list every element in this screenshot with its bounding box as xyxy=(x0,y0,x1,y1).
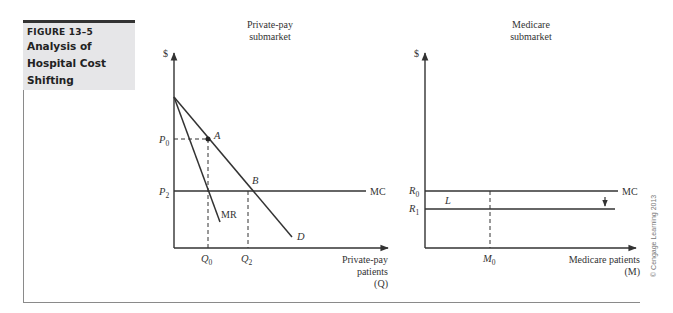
right-chart-title-line-1: Medicare xyxy=(512,19,550,30)
left-y-axis-label: $ xyxy=(163,48,168,59)
copyright-notice: © Cengage Learning 2013 xyxy=(650,195,658,277)
point-a-marker xyxy=(206,137,211,142)
left-x-label-line-3: (Q) xyxy=(374,278,388,290)
medicare-chart: Medicare submarket $ MC L R0 R1 M0 Medic… xyxy=(408,19,640,278)
tick-m0: M0 xyxy=(482,253,496,267)
figure-diagram: Private-pay submarket $ MC D MR A B P0 P… xyxy=(0,0,673,313)
demand-label: D xyxy=(296,231,305,242)
left-chart-title-line-2: submarket xyxy=(249,31,291,42)
right-mc-label: MC xyxy=(622,186,638,197)
left-mc-label: MC xyxy=(370,186,386,197)
point-b-label: B xyxy=(252,175,259,186)
tick-r0: R0 xyxy=(408,185,419,199)
right-chart-title-line-2: submarket xyxy=(510,31,552,42)
tick-r1: R1 xyxy=(408,203,419,217)
tick-p0: P0 xyxy=(158,134,169,148)
point-a-label: A xyxy=(213,130,221,141)
mr-label: MR xyxy=(221,209,237,220)
area-l-label: L xyxy=(444,195,451,206)
mr-curve xyxy=(174,97,220,222)
right-x-label-line-2: (M) xyxy=(624,266,640,278)
tick-p2: P2 xyxy=(158,186,169,200)
private-pay-chart: Private-pay submarket $ MC D MR A B P0 P… xyxy=(158,19,388,290)
left-x-label-line-2: patients xyxy=(357,266,388,277)
tick-q2: Q2 xyxy=(241,253,253,267)
right-x-label-line-1: Medicare patients xyxy=(569,254,640,265)
left-x-label-line-1: Private-pay xyxy=(342,254,388,265)
tick-q0: Q0 xyxy=(201,253,213,267)
right-y-axis-label: $ xyxy=(414,48,419,59)
left-chart-title-line-1: Private-pay xyxy=(247,19,293,30)
